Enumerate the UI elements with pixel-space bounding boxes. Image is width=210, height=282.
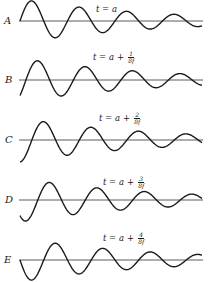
- damped-wave-figure: A t = a B t = a + 1 8f C t = a + 2 8f D …: [0, 0, 210, 282]
- time-label-e: t = a + 4 8f: [103, 232, 145, 245]
- fraction: 4 8f: [137, 232, 145, 245]
- fraction-denominator: 8f: [137, 183, 145, 189]
- panel-letter-a: A: [4, 16, 11, 26]
- panel-letter-e: E: [4, 255, 11, 265]
- fraction-denominator: 8f: [127, 58, 135, 64]
- time-expression: t = a: [103, 234, 124, 243]
- time-label-c: t = a + 2 8f: [99, 112, 141, 125]
- time-expression: t = a: [96, 5, 117, 14]
- damped-wave-curve: [20, 243, 202, 280]
- plus-sign: +: [127, 234, 134, 243]
- plus-sign: +: [127, 178, 134, 187]
- time-label-a: t = a: [96, 5, 117, 14]
- time-label-d: t = a + 3 8f: [103, 176, 145, 189]
- plus-sign: +: [123, 114, 130, 123]
- time-expression: t = a: [99, 114, 120, 123]
- fraction-denominator: 8f: [137, 239, 145, 245]
- fraction-denominator: 8f: [133, 119, 141, 125]
- fraction: 2 8f: [133, 112, 141, 125]
- fraction: 3 8f: [137, 176, 145, 189]
- time-expression: t = a: [103, 178, 124, 187]
- plus-sign: +: [117, 53, 124, 62]
- damped-wave-curve: [20, 122, 202, 162]
- fraction: 1 8f: [127, 51, 135, 64]
- damped-wave-curve: [20, 61, 202, 96]
- panel-letter-c: C: [5, 135, 13, 145]
- panel-letter-b: B: [5, 75, 12, 85]
- time-expression: t = a: [93, 53, 114, 62]
- time-label-b: t = a + 1 8f: [93, 51, 135, 64]
- panel-letter-d: D: [5, 195, 13, 205]
